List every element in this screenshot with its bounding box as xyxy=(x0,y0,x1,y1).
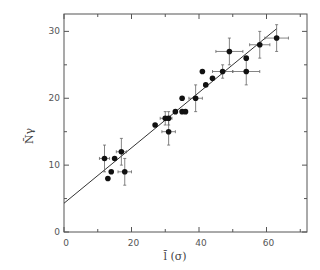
svg-text:20: 20 xyxy=(128,238,140,248)
svg-text:30: 30 xyxy=(49,26,61,36)
svg-text:20: 20 xyxy=(49,93,61,103)
error-bars xyxy=(99,25,288,185)
svg-text:0: 0 xyxy=(54,227,60,237)
scatter-chart: 02040600102030 l̄ (σ) N̄γ xyxy=(0,0,320,270)
tick-labels: 02040600102030 xyxy=(49,26,275,248)
fit-line xyxy=(64,29,277,204)
svg-text:0: 0 xyxy=(63,238,69,248)
data-points xyxy=(102,35,280,181)
svg-text:60: 60 xyxy=(263,238,275,248)
svg-text:40: 40 xyxy=(195,238,207,248)
axis-ticks xyxy=(64,14,307,232)
svg-text:10: 10 xyxy=(49,160,61,170)
y-axis-label: N̄γ xyxy=(23,127,36,144)
x-axis-label: l̄ (σ) xyxy=(163,250,187,263)
plot-frame xyxy=(64,14,307,232)
